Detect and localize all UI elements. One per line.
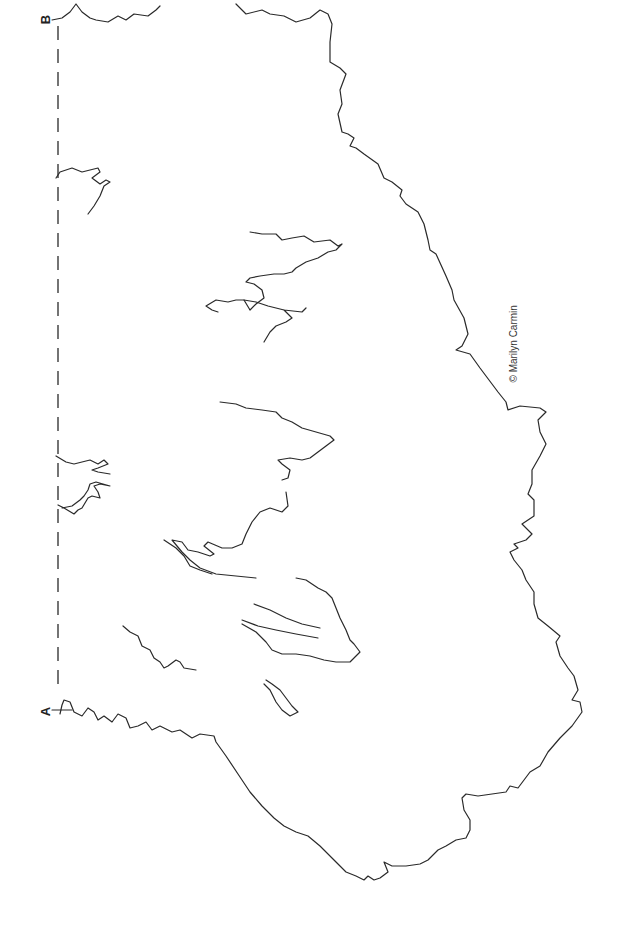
ridge-diagonal-left xyxy=(123,626,196,670)
feature-near-a-upper xyxy=(56,456,110,474)
copyright-credit: © Marilyn Carmin xyxy=(508,273,519,383)
outer-silhouette xyxy=(60,4,582,880)
ridge-thin-lines xyxy=(242,604,320,638)
feature-near-a-lower xyxy=(58,482,110,514)
ridge-b-left xyxy=(56,168,110,214)
ridge-mid-upper xyxy=(220,402,334,480)
ridge-near-b xyxy=(52,4,160,22)
ridge-slope-right xyxy=(242,578,360,662)
ridge-near-a xyxy=(264,680,298,716)
ridge-central-upper xyxy=(206,232,342,312)
profile-drawing xyxy=(0,0,624,930)
point-b-label: B xyxy=(38,15,53,24)
point-a-label: A xyxy=(38,707,53,716)
